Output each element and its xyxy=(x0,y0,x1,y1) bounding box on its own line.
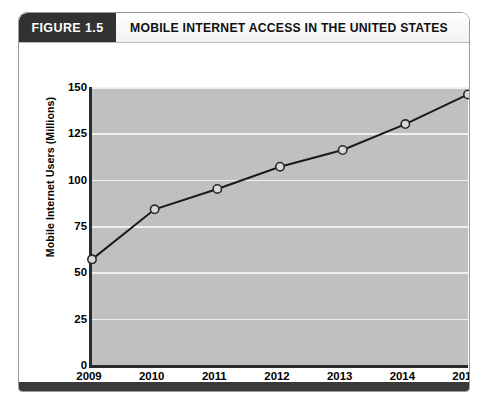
plot-area xyxy=(89,87,468,368)
x-tick-label-2013: 2013 xyxy=(327,370,352,382)
data-point-2011 xyxy=(213,185,221,193)
data-point-2013 xyxy=(338,146,346,154)
series-line xyxy=(92,94,468,259)
x-tick-label-2015: 2015 xyxy=(452,370,470,382)
figure-title: MOBILE INTERNET ACCESS IN THE UNITED STA… xyxy=(116,13,469,42)
x-tick-label-2012: 2012 xyxy=(264,370,289,382)
figure-header: FIGURE 1.5 MOBILE INTERNET ACCESS IN THE… xyxy=(19,13,469,43)
figure-card: FIGURE 1.5 MOBILE INTERNET ACCESS IN THE… xyxy=(18,12,470,392)
y-tick-label-25: 25 xyxy=(74,313,87,325)
x-tick-label-2011: 2011 xyxy=(202,370,227,382)
y-tick-label-125: 125 xyxy=(68,127,87,139)
y-axis-tick-labels: 0255075100125150 xyxy=(51,87,87,365)
y-tick-label-50: 50 xyxy=(74,266,87,278)
figure-number-badge: FIGURE 1.5 xyxy=(19,13,116,42)
x-tick-label-2014: 2014 xyxy=(390,370,415,382)
y-tick-label-75: 75 xyxy=(74,220,87,232)
x-tick-label-2009: 2009 xyxy=(76,370,101,382)
x-tick-label-2010: 2010 xyxy=(139,370,164,382)
data-point-2010 xyxy=(150,205,158,213)
chart-body: Mobile Internet Users (Millions) 0255075… xyxy=(19,43,469,383)
line-series-svg xyxy=(92,87,468,365)
data-point-2009 xyxy=(88,255,96,263)
data-point-2012 xyxy=(276,162,284,170)
y-tick-label-150: 150 xyxy=(68,81,87,93)
data-point-2015 xyxy=(464,90,470,98)
data-point-2014 xyxy=(401,120,409,128)
y-tick-label-100: 100 xyxy=(68,174,87,186)
figure-footer-bar xyxy=(19,382,469,391)
